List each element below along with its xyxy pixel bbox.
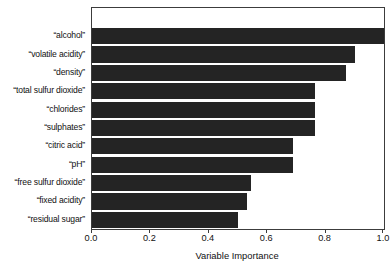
x-tick-label: 1.0 (377, 233, 390, 244)
category-label: “fixed acidity” (37, 195, 85, 205)
category-label: “density” (53, 67, 85, 77)
category-label: “sulphates” (44, 122, 85, 132)
category-axis: “alcohol”“volatile acidity”“density”“tot… (0, 7, 88, 228)
bar (92, 193, 247, 209)
category-label: “volatile acidity” (28, 49, 85, 59)
x-tick-label: 0.4 (201, 233, 214, 244)
x-tick-label: 0.8 (318, 233, 331, 244)
plot-area (91, 7, 385, 230)
x-tick-label: 0.0 (85, 233, 98, 244)
bar (92, 120, 315, 136)
bar (92, 175, 251, 191)
category-label: “chlorides” (47, 104, 85, 114)
category-label: “citric acid” (45, 140, 85, 150)
variable-importance-bar-chart: “alcohol”“volatile acidity”“density”“tot… (0, 0, 392, 273)
bar (92, 28, 384, 44)
category-label: “alcohol” (53, 30, 85, 40)
bar (92, 102, 315, 118)
category-label: “free sulfur dioxide” (15, 177, 85, 187)
bar (92, 46, 355, 62)
category-label: “residual sugar” (28, 214, 85, 224)
bar (92, 83, 315, 99)
bar (92, 157, 293, 173)
category-label: “total sulfur dioxide” (13, 85, 85, 95)
bar (92, 212, 238, 228)
x-tick-label: 0.6 (260, 233, 273, 244)
x-axis-title: Variable Importance (91, 250, 383, 261)
bars-layer (92, 8, 384, 229)
bar (92, 138, 293, 154)
bar (92, 65, 346, 81)
x-tick-label: 0.2 (143, 233, 156, 244)
category-label: “pH” (69, 159, 85, 169)
